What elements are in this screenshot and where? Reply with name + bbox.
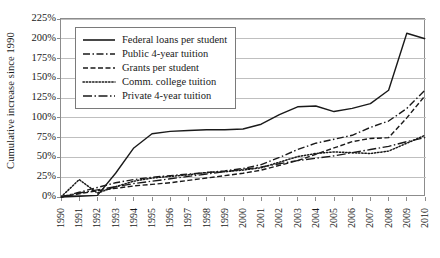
x-tick-label: 2006: [345, 198, 357, 242]
y-tick-label: 150%: [16, 72, 56, 82]
x-tick-label: 1995: [145, 198, 157, 242]
x-tick-label: 2009: [400, 198, 412, 242]
legend-item-label: Federal loans per student: [122, 34, 227, 46]
x-tick-label: 2007: [363, 198, 375, 242]
x-tick-label-text: 1995: [146, 208, 157, 228]
y-tick-label: 125%: [16, 92, 56, 102]
x-tick-label: 1999: [218, 198, 230, 242]
y-tick-label: 50%: [16, 151, 56, 161]
x-tick-label-text: 2010: [419, 208, 430, 228]
x-tick-label-text: 1997: [182, 208, 193, 228]
x-tick-label: 1990: [54, 198, 66, 242]
x-tick-label: 1994: [127, 198, 139, 242]
y-tick-label: 225%: [16, 13, 56, 23]
y-tick-label: 25%: [16, 171, 56, 181]
x-tick-label-text: 1993: [109, 208, 120, 228]
y-tick-label: 175%: [16, 53, 56, 63]
x-tick-label-text: 2006: [346, 208, 357, 228]
x-tick-label-text: 1999: [218, 208, 229, 228]
x-tick-label-text: 1991: [73, 208, 84, 228]
x-tick-label: 2002: [272, 198, 284, 242]
legend-line-swatch: [82, 76, 116, 88]
x-tick-label-text: 1992: [91, 208, 102, 228]
x-tick-label-text: 2007: [364, 208, 375, 228]
x-tick-label: 2000: [236, 198, 248, 242]
x-tick-label-text: 1994: [127, 208, 138, 228]
legend-line-swatch: [82, 62, 116, 74]
y-tick-label: 200%: [16, 33, 56, 43]
x-tick-label: 2003: [291, 198, 303, 242]
x-tick-label-text: 2004: [309, 208, 320, 228]
y-axis-tick-labels: 0%25%50%75%100%125%150%175%200%225%: [12, 18, 56, 196]
x-tick-label: 1991: [72, 198, 84, 242]
y-tick-label: 0%: [16, 191, 56, 201]
x-tick-label-text: 2008: [382, 208, 393, 228]
legend-item-label: Comm. college tuition: [122, 76, 216, 88]
legend-item: Comm. college tuition: [82, 75, 227, 89]
legend-item: Grants per student: [82, 61, 227, 75]
legend-line-swatch: [82, 90, 116, 102]
y-tick-label: 100%: [16, 112, 56, 122]
x-tick-label-text: 2009: [400, 208, 411, 228]
x-tick-label: 2010: [418, 198, 430, 242]
x-tick-label: 1996: [163, 198, 175, 242]
legend-item: Federal loans per student: [82, 33, 227, 47]
x-tick-label-text: 2001: [255, 208, 266, 228]
legend-item: Public 4-year tuition: [82, 47, 227, 61]
legend-item-label: Grants per student: [122, 62, 199, 74]
x-tick-label-text: 2005: [328, 208, 339, 228]
x-tick-label-text: 2000: [237, 208, 248, 228]
legend-line-swatch: [82, 34, 116, 46]
series-line: [61, 96, 425, 197]
chart-legend: Federal loans per studentPublic 4-year t…: [75, 27, 236, 109]
x-tick-label-text: 1990: [55, 208, 66, 228]
x-tick-label-text: 2003: [291, 208, 302, 228]
legend-item-label: Public 4-year tuition: [122, 48, 208, 60]
y-tick-label: 75%: [16, 132, 56, 142]
x-tick-label: 1992: [90, 198, 102, 242]
x-tick-label: 2005: [327, 198, 339, 242]
legend-line-swatch: [82, 48, 116, 60]
x-tick-label: 2008: [382, 198, 394, 242]
chart-figure: Cumulative increase since 1990 0%25%50%7…: [0, 0, 440, 258]
x-tick-label: 2004: [309, 198, 321, 242]
legend-item: Private 4-year tuition: [82, 89, 227, 103]
legend-item-label: Private 4-year tuition: [122, 90, 211, 102]
x-tick-label: 1998: [200, 198, 212, 242]
x-tick-label: 2001: [254, 198, 266, 242]
x-tick-label: 1993: [109, 198, 121, 242]
x-tick-label: 1997: [181, 198, 193, 242]
x-tick-label-text: 1996: [164, 208, 175, 228]
x-tick-label-text: 2002: [273, 208, 284, 228]
x-axis-tick-labels: 1990199119921993199419951996199719981999…: [60, 198, 425, 254]
x-tick-label-text: 1998: [200, 208, 211, 228]
